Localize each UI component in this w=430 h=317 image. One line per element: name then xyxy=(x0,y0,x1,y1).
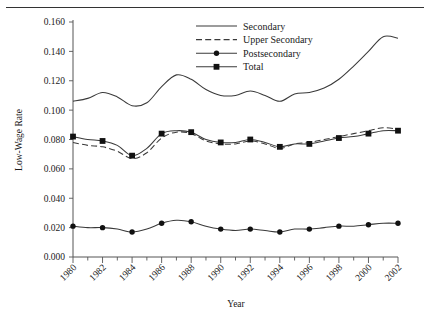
data-point-marker xyxy=(218,226,223,231)
y-tick-label: 0.080 xyxy=(44,135,66,145)
legend-marker-square xyxy=(214,64,220,70)
y-tick-label: 0.100 xyxy=(44,106,66,116)
x-tick-label: 1982 xyxy=(87,262,108,283)
x-tick-label: 1996 xyxy=(294,262,315,283)
series-line-total xyxy=(73,130,398,155)
y-tick-label: 0.020 xyxy=(44,223,66,233)
legend-marker-circle xyxy=(214,51,219,56)
x-tick-label: 1992 xyxy=(235,262,256,283)
data-point-marker xyxy=(277,229,282,234)
data-point-marker xyxy=(247,137,253,143)
data-point-marker xyxy=(129,229,134,234)
data-point-marker xyxy=(159,221,164,226)
series-line-upper-secondary xyxy=(73,128,398,159)
y-tick-label: 0.120 xyxy=(44,76,66,86)
legend-label-secondary: Secondary xyxy=(243,21,285,32)
y-tick-label: 0.160 xyxy=(44,17,66,27)
x-tick-label: 2002 xyxy=(383,262,404,283)
data-point-marker xyxy=(306,141,312,147)
y-tick-label: 0.040 xyxy=(44,194,66,204)
y-axis-title: Low-Wage Rate xyxy=(14,109,24,171)
data-point-marker xyxy=(188,129,194,135)
y-axis-ticks: 0.0000.0200.0400.0600.0800.1000.1200.140… xyxy=(44,17,73,262)
data-point-marker xyxy=(248,226,253,231)
x-tick-label: 1986 xyxy=(147,262,168,283)
data-point-marker xyxy=(188,219,193,224)
y-tick-label: 0.060 xyxy=(44,164,66,174)
legend-label-upper-secondary: Upper Secondary xyxy=(243,34,313,45)
chart-figure: 0.0000.0200.0400.0600.0800.1000.1200.140… xyxy=(0,0,430,317)
x-tick-label: 1984 xyxy=(117,262,138,283)
data-point-marker xyxy=(100,138,106,144)
chart-legend: SecondaryUpper SecondaryPostsecondaryTot… xyxy=(196,21,313,73)
x-axis-title: Year xyxy=(227,299,245,309)
data-point-marker xyxy=(366,131,372,137)
data-point-marker xyxy=(159,131,165,137)
data-point-marker xyxy=(218,140,224,146)
x-axis-ticks: 1980198219841986198819901992199419961998… xyxy=(58,257,404,283)
data-point-marker xyxy=(100,225,105,230)
x-tick-label: 2000 xyxy=(353,262,374,283)
x-tick-label: 1980 xyxy=(58,262,79,283)
data-point-marker xyxy=(395,128,401,134)
y-tick-label: 0.000 xyxy=(44,252,66,262)
data-point-marker xyxy=(129,153,135,159)
x-tick-label: 1988 xyxy=(176,262,197,283)
data-point-marker xyxy=(336,135,342,141)
low-wage-rate-line-chart: 0.0000.0200.0400.0600.0800.1000.1200.140… xyxy=(0,0,430,317)
data-point-marker xyxy=(70,223,75,228)
axis-lines xyxy=(73,20,398,257)
data-point-marker xyxy=(277,144,283,150)
series-line-secondary xyxy=(73,36,398,106)
x-tick-label: 1998 xyxy=(324,262,345,283)
x-tick-label: 1990 xyxy=(206,262,227,283)
data-point-marker xyxy=(366,222,371,227)
data-point-marker xyxy=(395,221,400,226)
data-point-marker xyxy=(307,226,312,231)
data-point-marker xyxy=(336,223,341,228)
legend-label-postsecondary: Postsecondary xyxy=(243,48,301,59)
legend-label-total: Total xyxy=(243,61,264,72)
y-tick-label: 0.140 xyxy=(44,47,66,57)
x-tick-label: 1994 xyxy=(265,262,286,283)
plot-series-group xyxy=(70,36,401,235)
data-point-marker xyxy=(70,134,76,140)
series-line-postsecondary xyxy=(73,220,398,232)
